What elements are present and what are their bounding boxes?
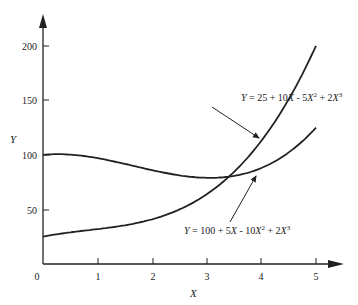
x-axis-title: X <box>189 287 198 299</box>
y-axis-title: Y <box>10 133 18 145</box>
x-axis-arrow-icon <box>328 260 344 268</box>
x-tick-3: 3 <box>205 271 210 282</box>
y-tick-50: 50 <box>27 205 37 216</box>
equation-label-2: Y = 100 + 5X - 10X2 + 2X3 <box>184 224 291 236</box>
y-axis: 200 150 100 50 Y <box>10 14 49 264</box>
equation-label-1: Y = 25 + 10X - 5X2 + 2X3 <box>241 91 343 103</box>
arrow-icon <box>212 107 259 138</box>
arrow-icon <box>230 176 256 222</box>
curve-cubic-1 <box>43 46 316 237</box>
y-axis-arrow-icon <box>39 14 47 28</box>
chart-canvas: 200 150 100 50 Y 0 1 2 3 4 5 X Y = 25 + … <box>0 0 358 305</box>
y-tick-100: 100 <box>22 150 37 161</box>
annotation-curve-1: Y = 25 + 10X - 5X2 + 2X3 <box>212 91 343 138</box>
x-tick-1: 1 <box>96 271 101 282</box>
x-tick-0: 0 <box>35 271 40 282</box>
annotation-curve-2: Y = 100 + 5X - 10X2 + 2X3 <box>184 176 291 236</box>
x-axis: 0 1 2 3 4 5 X <box>35 258 345 299</box>
x-tick-2: 2 <box>151 271 156 282</box>
x-tick-5: 5 <box>314 271 319 282</box>
x-tick-4: 4 <box>259 271 264 282</box>
y-tick-200: 200 <box>22 41 37 52</box>
curve-cubic-2 <box>43 128 316 178</box>
y-tick-150: 150 <box>22 95 37 106</box>
